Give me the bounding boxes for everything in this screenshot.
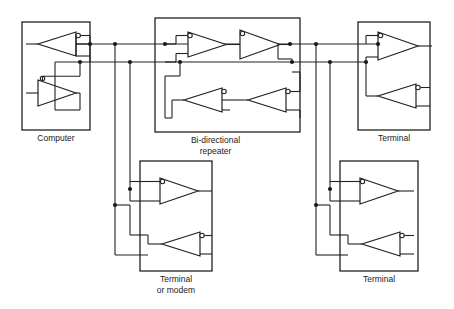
gate-terminal-br-driver (362, 232, 400, 256)
gate-repeater-fwd-1 (188, 32, 226, 57)
bubble-terminal-modem-receiver (160, 179, 164, 183)
junction-dot-terminal-br-lower (314, 203, 318, 207)
bubble-repeater-rev-2 (286, 89, 290, 93)
junction-dot-drop-upper-left (113, 42, 117, 46)
bubble-terminal-br-receiver (360, 179, 364, 183)
junction-dot-terminal-modem-upper (128, 187, 132, 191)
bubble-terminal-modem-driver (200, 233, 204, 237)
block-label-terminal-bottom-right: Terminal (363, 274, 395, 284)
junction-dot-repeater-in-upper (163, 42, 167, 46)
gate-terminal-br-receiver (360, 178, 398, 204)
bubble-repeater-rev-1 (222, 89, 226, 93)
bubble-terminal-br-driver (400, 233, 404, 237)
bubble-repeater-fwd-2 (240, 31, 244, 35)
block-label-repeater-line2: repeater (200, 146, 232, 156)
junction-dot-computer-upper (88, 42, 92, 46)
junction-dot-terminal-tr-upper (376, 42, 380, 46)
gate-terminal-modem-driver (162, 232, 200, 256)
gate-computer-driver (38, 80, 76, 106)
block-label-repeater-line1: Bi-directional (191, 135, 240, 145)
gate-repeater-fwd-2 (240, 30, 280, 59)
bubble-terminal-tr-receiver (378, 33, 382, 37)
junction-dot-repeater-out-lower (290, 60, 294, 64)
block-label-terminal-top-right: Terminal (378, 133, 410, 143)
bubble-computer-receiver (76, 33, 80, 37)
bubble-terminal-tr-driver (416, 85, 420, 89)
gate-terminal-tr-driver (378, 84, 416, 108)
junction-dot-terminal-modem-lower (113, 203, 117, 207)
diagram-canvas: ComputerBi-directionalrepeaterTerminalTe… (0, 0, 454, 309)
block-label-terminal-modem-line2: or modem (157, 285, 195, 295)
junction-dot-terminal-br-upper (328, 187, 332, 191)
schematic-svg: ComputerBi-directionalrepeaterTerminalTe… (0, 0, 454, 309)
gate-terminal-tr-receiver (378, 32, 418, 60)
junction-dot-drop-lower-right (328, 60, 332, 64)
junction-dot-drop-upper-right (314, 42, 318, 46)
junction-dot-terminal-tr-lower (364, 60, 368, 64)
gate-repeater-rev-1 (184, 88, 222, 112)
gate-terminal-modem-receiver (160, 178, 198, 204)
bubble-repeater-fwd-1 (188, 33, 192, 37)
gate-computer-receiver (38, 32, 76, 56)
block-label-terminal-modem-line1: Terminal (160, 274, 192, 284)
block-label-computer: Computer (37, 133, 74, 143)
gate-repeater-rev-2 (248, 88, 286, 112)
junction-dot-repeater-out-upper (288, 42, 292, 46)
junction-dot-computer-lower (78, 60, 82, 64)
junction-dot-drop-lower-left (128, 60, 132, 64)
